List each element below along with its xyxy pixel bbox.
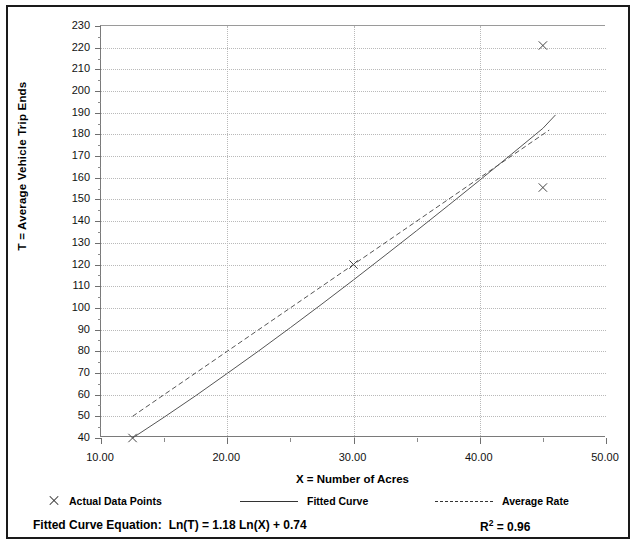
legend-label: Actual Data Points: [69, 495, 162, 507]
x-tick-label: 30.00: [323, 452, 383, 463]
x-axis-title: X = Number of Acres: [100, 473, 605, 485]
legend-item-fitted-curve: Fitted Curve: [240, 492, 368, 510]
legend-item-average-rate: Average Rate: [435, 492, 569, 510]
y-tick-label: 220: [50, 42, 90, 53]
equation-label: Fitted Curve Equation:: [33, 518, 162, 532]
y-tick-label: 110: [50, 280, 90, 291]
y-tick-label: 130: [50, 237, 90, 248]
x-tick-label: 40.00: [449, 452, 509, 463]
x-tick: [480, 438, 481, 444]
y-tick-label: 100: [50, 302, 90, 313]
chart-footer: Fitted Curve Equation:Ln(T) = 1.18 Ln(X)…: [20, 518, 620, 540]
y-tick-label: 80: [50, 345, 90, 356]
legend-item-actual-data-points: Actual Data Points: [48, 492, 162, 510]
chart-canvas: 4050607080901001101201301401501601701801…: [0, 0, 638, 547]
data-point-marker: [539, 41, 547, 49]
x-tick-label: 50.00: [575, 452, 635, 463]
r-value: = 0.96: [497, 520, 531, 534]
average-rate-line: [133, 130, 550, 416]
solid-line-icon: [240, 501, 298, 502]
y-tick-label: 70: [50, 367, 90, 378]
fitted-curve-equation: Fitted Curve Equation:Ln(T) = 1.18 Ln(X)…: [33, 518, 307, 532]
y-tick-label: 210: [50, 63, 90, 74]
y-tick-label: 160: [50, 172, 90, 183]
x-tick-minor: [290, 438, 291, 442]
fitted-curve-line: [133, 115, 556, 438]
dashed-line-icon: [435, 501, 493, 502]
y-tick-label: 60: [50, 389, 90, 400]
y-tick-label: 180: [50, 128, 90, 139]
x-tick: [227, 438, 228, 444]
r-exponent: 2: [489, 518, 494, 528]
r-symbol: R: [480, 520, 489, 534]
equation-value: Ln(T) = 1.18 Ln(X) + 0.74: [169, 518, 307, 532]
y-tick-label: 90: [50, 324, 90, 335]
x-tick-minor: [417, 438, 418, 442]
y-tick-label: 150: [50, 193, 90, 204]
y-tick-label: 50: [50, 410, 90, 421]
x-tick-label: 10.00: [70, 452, 130, 463]
y-tick-label: 40: [50, 432, 90, 443]
y-tick-label: 170: [50, 150, 90, 161]
x-tick: [101, 438, 102, 444]
y-tick-label: 120: [50, 259, 90, 270]
y-axis-title: T = Average Vehicle Trip Ends: [16, 36, 28, 296]
x-tick: [354, 438, 355, 444]
r-squared-value: R2 = 0.96: [480, 518, 530, 534]
x-marker-icon: [48, 495, 60, 507]
x-tick-minor: [164, 438, 165, 442]
x-tick-label: 20.00: [196, 452, 256, 463]
plot-area: [100, 25, 605, 437]
legend-label: Fitted Curve: [307, 495, 368, 507]
x-tick: [606, 438, 607, 444]
y-tick-label: 200: [50, 85, 90, 96]
data-series-layer: [101, 26, 606, 438]
legend-label: Average Rate: [502, 495, 569, 507]
x-tick-minor: [543, 438, 544, 442]
y-tick-label: 140: [50, 215, 90, 226]
y-tick-label: 230: [50, 20, 90, 31]
y-tick-label: 190: [50, 107, 90, 118]
chart-legend: Actual Data Points Fitted Curve Average …: [20, 492, 620, 512]
data-point-marker: [539, 183, 547, 191]
